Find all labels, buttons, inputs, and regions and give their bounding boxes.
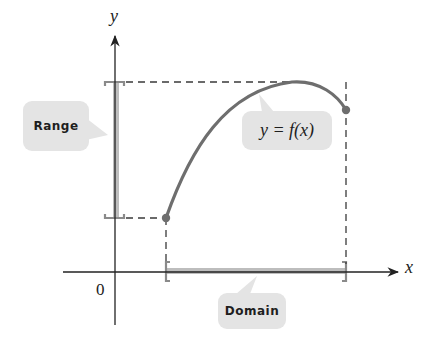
- dashed-guides: [126, 82, 346, 264]
- function-label-bubble: y = f(x): [242, 111, 332, 150]
- domain-range-diagram: y x 0 Range y = f(x) Domain: [0, 0, 432, 343]
- left-endpoint-dot: [162, 214, 170, 222]
- domain-label-bubble: Domain: [218, 293, 286, 329]
- y-axis-label: y: [110, 6, 118, 27]
- range-label-bubble: Range: [23, 101, 89, 151]
- function-bubble-pointer: [259, 94, 274, 112]
- range-bubble-pointer: [86, 118, 108, 140]
- domain-bubble-pointer: [236, 276, 257, 294]
- graph-svg: [0, 0, 432, 343]
- right-endpoint-dot: [342, 106, 350, 114]
- x-axis-label: x: [405, 257, 413, 278]
- origin-label: 0: [96, 280, 105, 300]
